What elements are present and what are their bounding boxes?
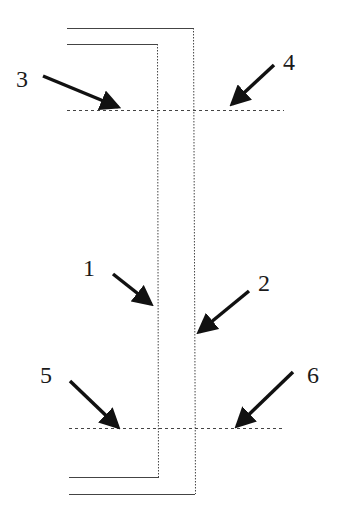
label-6: 6 [307, 362, 319, 388]
arrow-icon [232, 65, 274, 104]
label-4: 4 [283, 49, 295, 75]
diagram-canvas: 3 4 1 2 5 6 [0, 0, 337, 511]
arrow-icon [113, 274, 151, 304]
outer-vertical-line [194, 28, 196, 494]
inner-vertical-line [158, 44, 159, 477]
arrow-icon [237, 372, 293, 426]
label-3: 3 [16, 66, 28, 92]
label-5: 5 [40, 362, 52, 388]
label-2: 2 [258, 270, 270, 296]
arrow-icon [199, 291, 249, 332]
label-1: 1 [83, 255, 95, 281]
arrow-icon [70, 381, 118, 427]
arrow-icon [43, 76, 118, 107]
